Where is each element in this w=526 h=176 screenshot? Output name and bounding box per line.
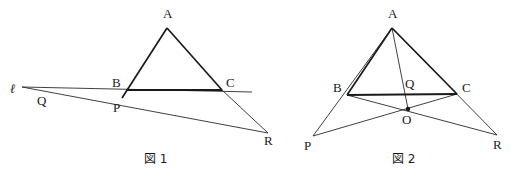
figure-1-label-Q: Q [37,93,47,108]
figure-2-group: A B C O Q P R 図 2 [304,6,502,166]
figure-2-line-cop [313,94,457,136]
geometry-figures-canvas: ℓ A B C P Q R 図 1 A B C O Q P R [0,0,526,176]
figure-2-side-ab [347,28,392,95]
figure-2-label-B: B [333,80,342,95]
figure-1-label-A: A [163,6,173,21]
figure-1-label-C: C [226,75,235,90]
figure-1-side-ac [167,28,222,90]
figure-1-label-P: P [113,100,120,115]
figure-1-side-ab [122,28,167,98]
figure-2-label-A: A [388,6,398,21]
figure-1-caption: 図 1 [144,152,167,166]
figure-2-label-R: R [493,137,502,152]
figure-2-label-Q: Q [405,76,415,91]
figure-1-label-R: R [264,133,273,148]
figure-1-segment-cr [222,90,268,133]
figure-2-cevian-ao [392,28,408,109]
figure-2-caption: 図 2 [392,152,415,166]
figure-2-label-P: P [304,138,311,153]
figure-1-group: ℓ A B C P Q R 図 1 [10,6,273,166]
figure-2-side-ac [392,28,457,94]
figure-2-side-bc [347,94,457,95]
figure-2-point-o-dot [406,107,410,111]
figure-2-label-C: C [462,80,471,95]
figure-2-line-bor [347,95,497,135]
figure-1-line-l-label: ℓ [10,81,16,96]
figure-1-label-B: B [112,75,121,90]
figure-2-label-O: O [402,112,411,127]
transversal-qpr-segment [22,87,268,133]
